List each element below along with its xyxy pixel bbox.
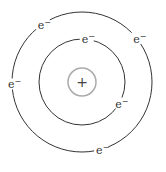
electron-charge: −: [140, 32, 147, 41]
electron-charge: −: [122, 97, 129, 106]
bohr-atom-diagram: + e−e−e−e−e−e−: [0, 0, 166, 172]
electron-charge: −: [15, 77, 22, 86]
electron-charge: −: [44, 18, 51, 27]
nucleus-charge-label: +: [76, 74, 88, 90]
electron-charge: −: [88, 32, 95, 41]
electron-charge: −: [103, 143, 110, 152]
